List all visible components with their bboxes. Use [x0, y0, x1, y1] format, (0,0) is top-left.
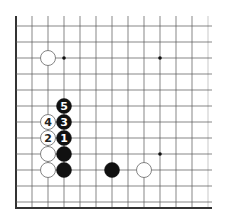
white-stone-icon [41, 147, 56, 162]
go-board: 54321 [0, 0, 230, 222]
black-stone [105, 163, 120, 178]
move-number-label: 2 [44, 132, 52, 145]
black-stone-move-3: 3 [57, 115, 72, 130]
white-stone-icon [41, 51, 56, 66]
move-number-label: 3 [60, 116, 68, 129]
white-stone [41, 147, 56, 162]
white-stone [41, 163, 56, 178]
white-stone-icon [137, 163, 152, 178]
black-stone [57, 147, 72, 162]
black-stone-icon [105, 163, 120, 178]
star-point-icon [158, 56, 162, 60]
move-number-label: 1 [60, 132, 68, 145]
black-stone-icon [57, 147, 72, 162]
white-stone-move-4: 4 [41, 115, 56, 130]
board-grid [15, 16, 212, 208]
white-stone-move-2: 2 [41, 131, 56, 146]
star-point-icon [158, 152, 162, 156]
black-stone-icon [57, 163, 72, 178]
white-stone [137, 163, 152, 178]
white-stone-icon [41, 163, 56, 178]
move-number-label: 4 [44, 116, 52, 129]
black-stone-move-1: 1 [57, 131, 72, 146]
black-stone [57, 163, 72, 178]
move-number-label: 5 [60, 100, 68, 113]
star-point-icon [62, 56, 66, 60]
black-stone-move-5: 5 [57, 99, 72, 114]
white-stone [41, 51, 56, 66]
